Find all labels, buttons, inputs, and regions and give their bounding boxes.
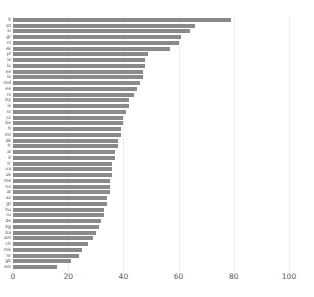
bar-row: nl xyxy=(13,41,289,45)
bar-row: sm xyxy=(13,265,289,269)
bar xyxy=(13,254,79,258)
gridline-100 xyxy=(289,17,291,276)
bar-row: sk xyxy=(13,47,289,51)
bar-row: az xyxy=(13,196,289,200)
bar xyxy=(13,116,123,120)
bar xyxy=(13,236,93,240)
bar-row: de xyxy=(13,219,289,223)
bar xyxy=(13,242,88,246)
bar xyxy=(13,219,101,223)
bar xyxy=(13,98,129,102)
bar-row: se xyxy=(13,70,289,74)
bar xyxy=(13,225,99,229)
bar-row: gb xyxy=(13,259,289,263)
bar-row: pt xyxy=(13,24,289,28)
bar xyxy=(13,173,112,177)
bar-chart: ltptsigrnlskplieluselvmdeersbyisroczbefi… xyxy=(0,0,314,297)
bar-row: hu xyxy=(13,208,289,212)
x-axis: 020406080100 xyxy=(13,272,289,288)
bar-row: by xyxy=(13,98,289,102)
x-axis-tick-label: 100 xyxy=(282,272,296,281)
bar-row: dk xyxy=(13,139,289,143)
bar-row: gr xyxy=(13,35,289,39)
bar-row: ie xyxy=(13,58,289,62)
bar-row: lu xyxy=(13,64,289,68)
bar xyxy=(13,52,148,56)
bar xyxy=(13,139,118,143)
bar-row: ch xyxy=(13,242,289,246)
bar-row: at xyxy=(13,190,289,194)
bar xyxy=(13,190,110,194)
bar xyxy=(13,259,71,263)
bar-row: rs xyxy=(13,93,289,97)
bar xyxy=(13,265,57,269)
bar-row: be xyxy=(13,121,289,125)
x-axis-tick-label: 40 xyxy=(119,272,129,281)
bar-row: ee xyxy=(13,87,289,91)
bar xyxy=(13,127,121,131)
bar xyxy=(13,29,190,33)
bar xyxy=(13,150,115,154)
bar-row: si xyxy=(13,29,289,33)
plot-area: ltptsigrnlskplieluselvmdeersbyisroczbefi… xyxy=(13,17,289,270)
bar-row: me xyxy=(13,179,289,183)
bar xyxy=(13,121,123,125)
bar-row: md xyxy=(13,81,289,85)
bar xyxy=(13,213,104,217)
bar xyxy=(13,104,129,108)
bar-row: ba xyxy=(13,231,289,235)
x-axis-tick-label: 0 xyxy=(11,272,16,281)
bar-row: ro xyxy=(13,110,289,114)
bar xyxy=(13,144,118,148)
y-axis-tick-label: sm xyxy=(4,265,11,270)
bar-row: lt xyxy=(13,18,289,22)
x-axis-tick-label: 20 xyxy=(63,272,73,281)
bar xyxy=(13,162,112,166)
bar-row: gt xyxy=(13,202,289,206)
bar xyxy=(13,24,195,28)
bar-row: it xyxy=(13,156,289,160)
bar-row: fr xyxy=(13,144,289,148)
bar xyxy=(13,185,110,189)
bar-row: nr xyxy=(13,254,289,258)
bar xyxy=(13,231,96,235)
x-axis-tick-label: 80 xyxy=(229,272,239,281)
bar xyxy=(13,248,82,252)
bar xyxy=(13,196,107,200)
bar-row: mt xyxy=(13,133,289,137)
bar xyxy=(13,41,179,45)
bar xyxy=(13,202,107,206)
bar-row: pl xyxy=(13,52,289,56)
bar xyxy=(13,58,145,62)
bar-row: al xyxy=(13,150,289,154)
bar-row: uk xyxy=(13,173,289,177)
bar xyxy=(13,110,126,114)
bar-row: cz xyxy=(13,116,289,120)
x-axis-tick-label: 60 xyxy=(174,272,184,281)
bar xyxy=(13,47,170,51)
bar xyxy=(13,133,121,137)
bar xyxy=(13,87,137,91)
bar xyxy=(13,75,143,79)
bar-row: ua xyxy=(13,167,289,171)
bar-row: is xyxy=(13,104,289,108)
bar-row: tr xyxy=(13,162,289,166)
bar xyxy=(13,208,104,212)
bar-series: ltptsigrnlskplieluselvmdeersbyisroczbefi… xyxy=(13,17,289,270)
bar-row: no xyxy=(13,185,289,189)
bar xyxy=(13,93,134,97)
bar-row: ru xyxy=(13,213,289,217)
bar-row: am xyxy=(13,236,289,240)
bar xyxy=(13,35,181,39)
bar-row: bg xyxy=(13,225,289,229)
bar xyxy=(13,156,115,160)
bar-row: fi xyxy=(13,127,289,131)
bar-row: lv xyxy=(13,75,289,79)
bar xyxy=(13,70,143,74)
bar xyxy=(13,18,231,22)
bar-row: mk xyxy=(13,248,289,252)
bar xyxy=(13,179,110,183)
bar xyxy=(13,167,112,171)
bar xyxy=(13,64,145,68)
bar xyxy=(13,81,140,85)
